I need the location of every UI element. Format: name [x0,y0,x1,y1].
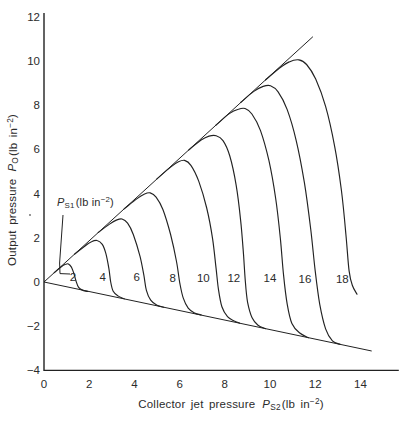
x-axis-units-exponent: −2 [310,397,320,406]
y-tick-label-6: 6 [34,143,40,155]
pressure-characteristics-figure: 121086420−2−40246810121424681012141618 O… [0,0,408,430]
y-axis-units-close: ) [6,114,18,118]
curve-label-14: 14 [264,272,277,284]
y-axis-symbol-subscript: O [11,157,20,164]
curve-label-18: 18 [336,273,349,285]
y-tick-label-2: 2 [34,232,40,244]
y-tick-label-−2: −2 [27,320,40,332]
y-axis-title-text: Output pressure [6,179,18,266]
annotation-symbol: P [57,196,65,208]
y-tick-label-10: 10 [27,55,40,67]
curve-label-6: 6 [133,271,139,283]
curve-label-8: 8 [170,272,176,284]
y-axis-symbol: P [6,164,18,172]
x-tick-label-12: 12 [309,378,322,390]
ps1-family-annotation: PS1(lb in−2) [57,195,114,210]
x-tick-label-6: 6 [176,378,182,390]
x-axis-title: Collector jet pressurePS2(lb in−2) [138,397,323,412]
curve-label-10: 10 [197,272,210,284]
curve-label-12: 12 [227,272,240,284]
x-axis-units-close: ) [320,398,324,410]
annotation-symbol-subscript: S1 [65,201,75,210]
y-tick-label-8: 8 [34,99,40,111]
y-axis-units-open: (lb in [6,128,18,156]
curve-ps1-18 [266,60,358,294]
curve-label-16: 16 [299,273,312,285]
annotation-units-close: ) [110,196,114,208]
y-tick-label-12: 12 [27,11,40,23]
x-tick-label-10: 10 [264,378,277,390]
y-axis-units-exponent: −2 [6,118,15,128]
curve-label-2: 2 [70,271,76,283]
plot-canvas: 121086420−2−40246810121424681012141618 [0,0,408,430]
annotation-units-open: (lb in [76,196,101,208]
y-tick-label-−4: −4 [27,364,41,376]
curve-ps1-8 [124,193,201,315]
annotation-units-exponent: −2 [101,195,110,204]
curve-ps1-16 [241,85,341,344]
y-axis-title: Output pressurePO(lb in−2) [6,114,21,266]
x-tick-label-8: 8 [222,378,228,390]
x-tick-label-2: 2 [86,378,92,390]
curve-label-4: 4 [100,271,107,283]
y-tick-label-4: 4 [34,188,41,200]
scan-speck [29,214,31,216]
x-axis-symbol: P [262,398,270,410]
y-tick-label-0: 0 [34,276,40,288]
curve-ps1-14 [216,108,309,338]
x-tick-label-14: 14 [354,378,367,390]
curve-ps1-12 [189,135,266,328]
x-axis-title-text: Collector jet pressure [138,398,255,410]
curve-ps1-10 [157,160,240,323]
x-axis-units-open: (lb in [282,398,310,410]
x-axis-symbol-subscript: S2 [270,403,281,412]
x-tick-label-4: 4 [131,378,138,390]
x-tick-label-0: 0 [41,378,47,390]
axes-frame [44,13,399,370]
